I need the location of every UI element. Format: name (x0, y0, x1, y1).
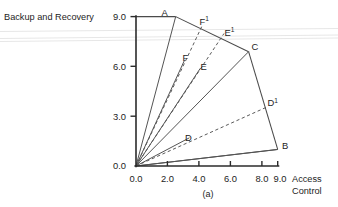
y-tick-label-0: 0.0 (113, 160, 126, 171)
x-tick-label-2: 2.0 (161, 173, 174, 184)
point-label-A: A (162, 7, 169, 18)
x-tick-label-8: 8.0 (255, 173, 268, 184)
y-tick-label-6: 6.0 (113, 61, 126, 72)
point-labels: A F1 E1 C F E D1 D B (162, 7, 289, 151)
x-tick-label-9: 9.0 (273, 173, 286, 184)
figure-panel: 9.0 6.0 3.0 0.0 0.0 2.0 4.0 6.0 8.0 9.0 … (0, 0, 338, 207)
vector-diagram-svg: 9.0 6.0 3.0 0.0 0.0 2.0 4.0 6.0 8.0 9.0 … (0, 0, 338, 207)
y-axis-title: Backup and Recovery (4, 12, 94, 22)
x-tick-label-4: 4.0 (192, 173, 205, 184)
x-tick-label-6: 6.0 (224, 173, 237, 184)
point-label-D1: D1 (268, 97, 279, 108)
point-label-E: E (201, 61, 207, 72)
point-label-F: F (183, 52, 189, 63)
x-axis-title-line2: Control (292, 186, 322, 196)
point-label-D: D (185, 132, 192, 143)
dashed-rays (136, 26, 267, 166)
point-label-C: C (252, 41, 259, 52)
x-tick-label-0: 0.0 (129, 173, 142, 184)
y-tick-label-3: 3.0 (113, 111, 126, 122)
point-label-B: B (282, 140, 288, 151)
point-label-F1: F1 (200, 15, 210, 26)
x-axis-title-line1: Access (292, 174, 322, 184)
y-tick-label-9: 9.0 (113, 11, 126, 22)
scan-artifact-lines (0, 29, 338, 42)
y-axis (131, 16, 137, 167)
figure-caption: (a) (203, 189, 214, 199)
